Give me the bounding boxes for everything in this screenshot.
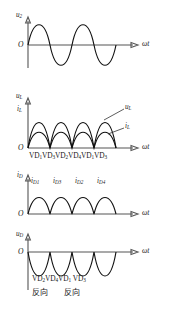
waveform-ul xyxy=(28,123,116,149)
device-vd-3: VD2 xyxy=(55,151,68,160)
device-vd-2: VD3 xyxy=(42,151,55,160)
panel-u2-y-label: u2 xyxy=(16,12,22,19)
panel-u2: u2 O ωt xyxy=(0,8,169,72)
panel-id: iD iD1 iD3 iD2 iD4 O ωt xyxy=(0,170,169,224)
hump-label-id4: iD4 xyxy=(97,178,105,185)
leader-ul xyxy=(104,109,124,120)
device-vd-4: VD4 xyxy=(68,151,81,160)
annotation-reverse-1: 反向 xyxy=(32,286,48,297)
waveform-id xyxy=(28,198,116,215)
panel-ud: uD O ωt VD2VD4VD1 VD3 反向 反向 xyxy=(0,228,169,316)
device-rev-1: VD2 xyxy=(32,274,45,283)
panel-ud-origin: O xyxy=(18,247,23,256)
leader-il xyxy=(108,128,124,134)
hump-label-id3: iD3 xyxy=(53,178,61,185)
panel-ul-x-label: ωt xyxy=(142,142,149,151)
device-rev-4: VD3 xyxy=(73,274,86,283)
hump-label-id1: iD1 xyxy=(31,178,39,185)
panel-id-y-label: iD xyxy=(17,172,23,179)
device-vd-1: VD1 xyxy=(29,151,42,160)
device-rev-3: VD1 xyxy=(58,274,71,283)
annotation-reverse-2: 反向 xyxy=(64,286,80,297)
panel-ul-il: uL iL uL iL O ωt VD1VD3VD2VD4VD1VD3 xyxy=(0,90,169,166)
hump-label-id2: iD2 xyxy=(75,178,83,185)
panel-u2-origin: O xyxy=(18,40,23,49)
panel-ud-x-label: ωt xyxy=(142,246,149,255)
panel-ud-plot xyxy=(0,228,169,316)
device-sequence-conducting: VD1VD3VD2VD4VD1VD3 xyxy=(29,151,107,160)
device-vd-6: VD3 xyxy=(94,151,107,160)
device-vd-5: VD1 xyxy=(81,151,94,160)
panel-id-origin: O xyxy=(18,209,23,218)
rectifier-waveform-figure: u2 O ωt uL iL uL iL O xyxy=(0,0,169,317)
waveform-ud xyxy=(28,252,116,276)
panel-ul-origin: O xyxy=(18,143,23,152)
panel-u2-x-label: ωt xyxy=(142,39,149,48)
panel-id-x-label: ωt xyxy=(142,208,149,217)
panel-ud-y-label: uD xyxy=(16,231,23,238)
device-rev-2: VD4 xyxy=(45,274,58,283)
curve-label-ul: uL xyxy=(125,104,131,111)
device-sequence-reverse: VD2VD4VD1 VD3 xyxy=(32,274,86,283)
panel-ul-y-label: uL xyxy=(16,93,22,100)
curve-label-il: iL xyxy=(125,123,130,130)
panel-il-y-label: iL xyxy=(17,106,22,113)
